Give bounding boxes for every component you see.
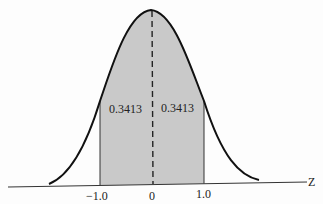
tick-label-neg1: −1.0 — [86, 189, 108, 203]
normal-distribution-figure: 0.3413 0.3413 −1.0 0 1.0 Z — [0, 0, 323, 204]
tick-label-1: 1.0 — [196, 187, 211, 201]
area-label-right: 0.3413 — [161, 101, 194, 115]
normal-curve-chart: 0.3413 0.3413 −1.0 0 1.0 Z — [0, 0, 323, 204]
area-label-left: 0.3413 — [109, 102, 142, 116]
tick-label-0: 0 — [149, 189, 155, 203]
axis-label-z: Z — [308, 175, 315, 189]
